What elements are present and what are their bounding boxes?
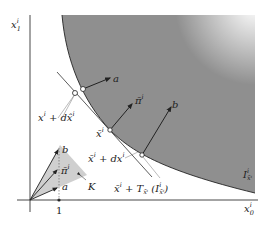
point-x-bar <box>108 128 112 132</box>
label-cone-b: b <box>62 144 68 155</box>
label-x-bar: x̄i <box>96 126 104 139</box>
y-axis-label: xi1 <box>11 17 21 33</box>
label-cone-k: K <box>87 181 96 192</box>
label-b: b <box>172 99 178 110</box>
label-x-dx-hat: xi + dx̂i <box>38 110 75 123</box>
label-x-bar-dx: x̄i + dxi <box>88 151 125 164</box>
point-a-origin <box>81 87 86 92</box>
diagram-figure: xi1 xi0 1 a π̄i b xi + dx̂i x̄i x̄i + dx… <box>0 0 271 226</box>
label-cone-a: a <box>62 181 68 192</box>
preferred-region <box>62 10 271 193</box>
cone-k <box>30 145 87 200</box>
label-a: a <box>113 73 119 84</box>
x-tick-label: 1 <box>56 205 62 216</box>
point-x-dx-hat <box>73 91 78 96</box>
label-tangent: x̄i + Tx̄ⁱ (Iix̄ⁱ) <box>114 181 168 196</box>
point-x-bar-dx <box>140 153 144 157</box>
x-axis-label: xi0 <box>244 201 254 217</box>
